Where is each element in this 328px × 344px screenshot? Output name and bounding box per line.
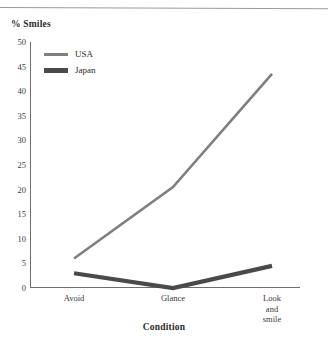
legend-label-japan: Japan [75, 66, 96, 75]
y-tick-label: 30 [18, 136, 27, 145]
data-series-layer [30, 42, 300, 288]
series-line-usa [74, 74, 272, 258]
y-tick-label: 10 [18, 235, 27, 244]
y-tick-label: 0 [22, 284, 26, 293]
legend-swatch-japan [44, 68, 68, 72]
legend-swatch-usa [44, 53, 68, 56]
x-axis-title: Condition [0, 322, 328, 332]
x-tick-label: Avoid [64, 293, 85, 304]
y-axis-title: % Smiles [11, 19, 51, 29]
legend-item-usa: USA [44, 50, 96, 59]
line-chart-figure: % Smiles 05101520253035404550 AvoidGlanc… [0, 0, 328, 344]
y-tick-label: 40 [18, 87, 27, 96]
y-tick-label: 20 [18, 185, 27, 194]
y-tick-label: 45 [18, 62, 27, 71]
y-tick-label: 15 [18, 210, 27, 219]
series-line-japan [74, 266, 272, 288]
legend-item-japan: Japan [44, 66, 96, 75]
y-tick-label: 25 [18, 161, 27, 170]
y-tick-label: 50 [18, 38, 27, 47]
legend-label-usa: USA [75, 50, 93, 59]
chart-legend: USAJapan [44, 50, 96, 75]
x-tick-label: Look and smile [258, 293, 286, 325]
plot-area: 05101520253035404550 AvoidGlanceLook and… [30, 42, 300, 288]
x-tick-label: Glance [161, 293, 185, 304]
y-tick-label: 5 [22, 259, 26, 268]
y-tick-label: 35 [18, 112, 27, 121]
